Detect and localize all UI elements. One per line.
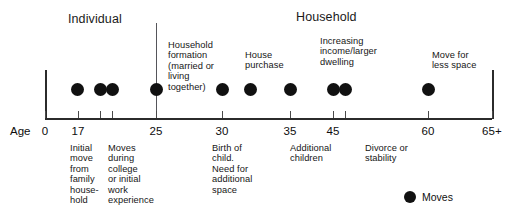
axis-tick-17	[78, 111, 79, 118]
axis-tick-label-25: 25	[136, 125, 176, 137]
annotation-text: Birth of child. Need for additional spac…	[212, 143, 270, 195]
annotation-text: Divorce or stability	[365, 143, 427, 164]
move-dot	[339, 83, 352, 96]
section-title-individual: Individual	[68, 12, 122, 26]
axis-tick-label-45: 45	[313, 125, 353, 137]
move-dot	[71, 83, 84, 96]
axis-tick-25	[156, 111, 157, 118]
axis-tick-45	[333, 111, 334, 118]
annotation-text: Household formation (married or living t…	[168, 40, 228, 92]
axis-minor-tick-2	[345, 111, 346, 118]
axis-tick-label-60: 60	[408, 125, 448, 137]
annotation-text: Move for less space	[432, 50, 490, 71]
annotation-text: Initial move from family house- hold	[70, 143, 110, 205]
legend-label: Moves	[422, 191, 453, 203]
move-dot	[327, 83, 340, 96]
timeline-axis	[45, 118, 492, 120]
axis-tick-label-65plus: 65+	[472, 125, 512, 137]
axis-minor-tick-1	[112, 111, 113, 118]
annotation-text: Additional children	[290, 143, 352, 164]
section-title-household: Household	[296, 10, 357, 24]
annotation-text: House purchase	[245, 50, 301, 71]
move-dot	[150, 83, 163, 96]
annotation-text: Moves during college or initial work exp…	[108, 143, 170, 205]
annotation-text: Increasing income/larger dwelling	[320, 36, 392, 67]
phase-divider-line	[156, 23, 157, 118]
axis-tick-35	[290, 111, 291, 118]
life-course-moves-timeline-figure: Individual Household Age 017253035456065…	[0, 0, 526, 214]
axis-tick-label-35: 35	[270, 125, 310, 137]
axis-tick-label-17: 17	[58, 125, 98, 137]
axis-tick-30	[222, 111, 223, 118]
move-dot	[284, 83, 297, 96]
axis-tick-label-30: 30	[202, 125, 242, 137]
move-dot	[94, 83, 107, 96]
axis-minor-tick-0	[100, 111, 101, 118]
move-dot	[422, 83, 435, 96]
axis-tick-0	[45, 111, 46, 118]
axis-tick-60	[428, 111, 429, 118]
legend-move-dot-icon	[404, 191, 416, 203]
legend: Moves	[404, 191, 453, 203]
move-dot	[106, 83, 119, 96]
axis-tick-65plus	[492, 111, 493, 118]
move-dot	[244, 83, 257, 96]
